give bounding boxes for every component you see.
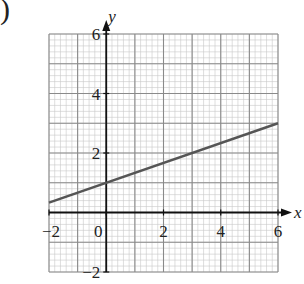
- x-tick-label: 0: [94, 222, 103, 241]
- x-tick-label: 6: [274, 222, 283, 241]
- x-tick-label: −2: [42, 222, 60, 241]
- x-axis-arrow-icon: [281, 209, 292, 217]
- y-axis-label: y: [106, 7, 116, 26]
- y-tick-label: 6: [92, 25, 101, 44]
- y-tick-label: 4: [92, 85, 101, 104]
- x-tick-label: 4: [217, 222, 226, 241]
- line-chart: xy−20246−2246: [0, 0, 304, 284]
- y-tick-label: 2: [92, 144, 101, 163]
- y-tick-label: −2: [82, 263, 100, 282]
- x-axis-label: x: [293, 203, 302, 222]
- x-tick-label: 2: [159, 222, 168, 241]
